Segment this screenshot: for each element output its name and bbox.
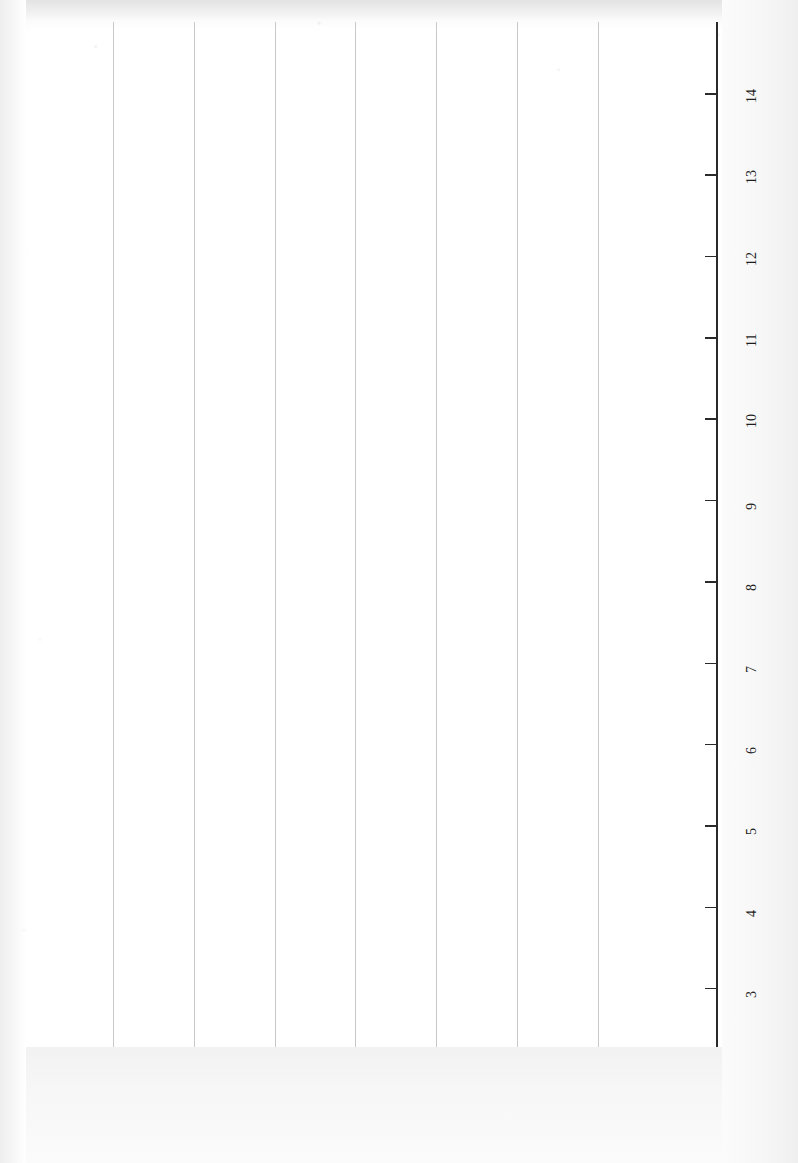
x-tick-label: 8 [744,584,760,591]
gridline [275,22,276,1047]
gridline [517,22,518,1047]
x-tick-label: 7 [744,666,760,673]
x-tick-label: 12 [744,252,760,266]
x-tick-label: 13 [744,170,760,184]
x-tick-label: 9 [744,503,760,510]
x-axis-line [716,22,718,1047]
gridline [113,22,114,1047]
x-tick-label: 5 [744,828,760,835]
gridline [436,22,437,1047]
x-tick-label: 10 [744,414,760,428]
gridline [194,22,195,1047]
x-tick-label: 11 [744,334,760,347]
gridline [598,22,599,1047]
scatter-plot: 34567891011121314 [0,0,798,1163]
x-tick-label: 4 [744,910,760,917]
x-tick-label: 6 [744,747,760,754]
x-tick-label: 14 [744,89,760,103]
gridline [355,22,356,1047]
x-tick-label: 3 [744,991,760,998]
